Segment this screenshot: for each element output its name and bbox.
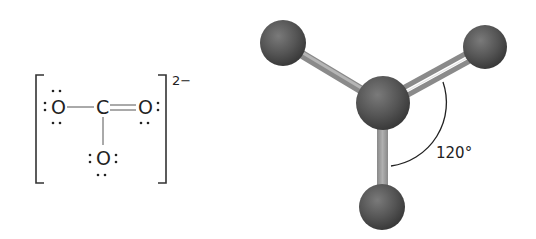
lewis-structure: 2− O C O O [36,73,191,183]
oxygen-atom-bottom [359,184,405,230]
right-oxygen-symbol: O [138,96,153,118]
oxygen-atom-top-left [260,20,306,66]
right-bracket [158,75,166,183]
left-oxygen-symbol: O [51,96,66,118]
carbon-symbol: C [96,96,109,118]
ball-and-stick-model: 120° [260,20,507,230]
ion-charge: 2− [172,73,191,88]
oxygen-atom-top-right [463,25,507,69]
carbon-atom-center [356,76,410,130]
bond-angle-label: 120° [436,144,472,162]
left-bracket [36,75,44,183]
bottom-oxygen-symbol: O [96,147,111,169]
carbonate-diagram: 2− O C O O [0,0,536,239]
